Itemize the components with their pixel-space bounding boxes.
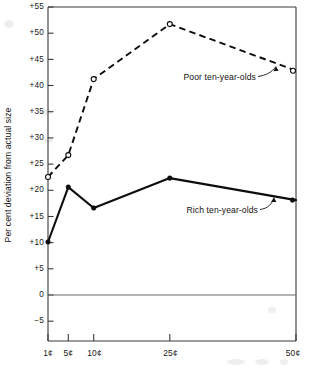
data-point-rich-5c <box>66 185 71 190</box>
x-tick-label: 1¢ <box>43 348 53 358</box>
annotation-leader-poor <box>258 67 276 77</box>
x-tick-label: 5¢ <box>63 348 73 358</box>
annotation-arrowhead-rich <box>271 198 276 203</box>
data-point-poor-25c <box>167 22 172 27</box>
y-tick-label: +25 <box>30 159 45 168</box>
x-axis-tick-labels: 1¢ 5¢ 10¢ 25¢ 50¢ <box>43 348 300 358</box>
y-tick-label: +30 <box>30 133 45 142</box>
y-axis-ticks <box>48 7 54 321</box>
x-axis-ticks <box>48 334 296 341</box>
annotation-leader-rich <box>260 198 274 210</box>
x-tick-label: 25¢ <box>163 348 178 358</box>
annotation-poor-ten-year-olds: Poor ten-year-olds <box>184 67 279 83</box>
y-tick-label: +10 <box>30 238 45 247</box>
data-point-rich-50c <box>290 198 295 203</box>
y-tick-label: 0 <box>39 290 44 299</box>
y-tick-label: +5 <box>34 264 44 273</box>
y-axis-tick-labels: +55 +50 +45 +40 +35 +30 +25 +20 +15 +10 … <box>30 2 45 325</box>
annotation-label-poor: Poor ten-year-olds <box>184 72 257 82</box>
data-point-rich-25c <box>168 176 173 181</box>
data-point-poor-5c <box>66 153 71 158</box>
data-point-poor-10c <box>91 77 96 82</box>
plot-frame <box>48 7 296 341</box>
y-tick-label: +20 <box>30 185 45 194</box>
series-line-poor <box>48 24 296 177</box>
annotation-rich-ten-year-olds: Rich ten-year-olds <box>186 198 276 216</box>
y-tick-label: +50 <box>30 28 45 37</box>
data-point-rich-1c <box>46 240 51 245</box>
y-tick-label: +45 <box>30 55 45 64</box>
coin-size-deviation-line-chart: +55 +50 +45 +40 +35 +30 +25 +20 +15 +10 … <box>0 0 311 368</box>
annotation-label-rich: Rich ten-year-olds <box>186 205 258 215</box>
data-point-rich-10c <box>91 206 96 211</box>
y-tick-label: −5 <box>34 316 44 325</box>
x-tick-label: 50¢ <box>286 348 301 358</box>
y-tick-label: +35 <box>30 107 45 116</box>
chart-figure: +55 +50 +45 +40 +35 +30 +25 +20 +15 +10 … <box>0 0 311 368</box>
data-point-poor-1c <box>46 175 51 180</box>
y-axis-title: Per cent deviation from actual size <box>3 107 13 242</box>
series-rich-ten-year-olds <box>46 176 296 245</box>
series-line-rich <box>48 178 296 242</box>
y-tick-label: +15 <box>30 212 45 221</box>
data-point-poor-50c <box>291 68 296 73</box>
y-tick-label: +40 <box>30 81 45 90</box>
y-tick-label: +55 <box>30 2 45 11</box>
series-poor-ten-year-olds <box>46 22 297 180</box>
x-tick-label: 10¢ <box>87 348 102 358</box>
